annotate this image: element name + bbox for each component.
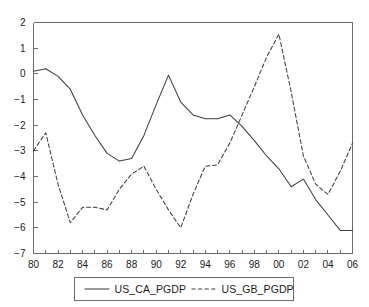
data-series-group [34, 34, 353, 230]
x-tick-label: 80 [28, 259, 40, 270]
y-tick-label: −1 [14, 94, 26, 105]
x-axis-tick-labels: 8082848688909294969800020406 [28, 259, 359, 270]
chart-legend: US_CA_PGDPUS_GB_PGDP [75, 278, 294, 301]
y-tick-label: −2 [14, 120, 26, 131]
y-axis-tick-marks [34, 23, 38, 254]
x-tick-label: 04 [322, 259, 334, 270]
axis-frame [34, 23, 353, 254]
x-tick-label: 98 [249, 259, 261, 270]
x-tick-label: 92 [175, 259, 187, 270]
legend-label-us-gb-pgdp: US_GB_PGDP [222, 283, 294, 295]
x-tick-label: 00 [273, 259, 285, 270]
x-tick-label: 02 [298, 259, 310, 270]
x-tick-label: 96 [224, 259, 236, 270]
y-tick-label: 1 [20, 43, 26, 54]
x-tick-label: 90 [151, 259, 163, 270]
y-tick-label: −6 [14, 222, 26, 233]
series-line-us-gb-pgdp [34, 34, 353, 228]
y-tick-label: −7 [14, 248, 26, 259]
chart-container: 210−1−2−3−4−5−6−7 8082848688909294969800… [0, 0, 369, 307]
x-tick-label: 84 [77, 259, 89, 270]
x-axis-tick-marks [34, 250, 353, 254]
y-tick-label: 0 [20, 68, 26, 79]
series-line-us-ca-pgdp [34, 69, 353, 231]
y-tick-label: −3 [14, 145, 26, 156]
x-tick-label: 88 [126, 259, 138, 270]
x-tick-label: 82 [52, 259, 64, 270]
line-chart: 210−1−2−3−4−5−6−7 8082848688909294969800… [0, 0, 369, 307]
y-axis-tick-labels: 210−1−2−3−4−5−6−7 [14, 17, 26, 259]
x-tick-label: 86 [102, 259, 114, 270]
legend-label-us-ca-pgdp: US_CA_PGDP [115, 283, 187, 295]
x-tick-label: 94 [200, 259, 212, 270]
y-tick-label: −5 [14, 197, 26, 208]
x-tick-label: 06 [347, 259, 359, 270]
y-tick-label: 2 [20, 17, 26, 28]
y-tick-label: −4 [14, 171, 26, 182]
